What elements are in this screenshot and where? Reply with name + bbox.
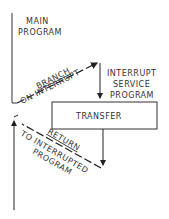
main-program-label-2: PROGRAM <box>18 28 62 37</box>
service-label-1: INTERRUPT <box>107 69 156 78</box>
service-label-2: SERVICE <box>113 80 150 89</box>
interrupt-diagram: MAIN PROGRAM INTERRUPT SERVICE PROGRAM T… <box>0 0 169 219</box>
branch-label-2: ON INTERRUPT <box>19 68 82 106</box>
transfer-label: TRANSFER <box>75 112 122 121</box>
main-program-label-1: MAIN <box>26 17 49 26</box>
service-label-3: PROGRAM <box>110 91 154 100</box>
return-top-tick <box>14 115 18 117</box>
